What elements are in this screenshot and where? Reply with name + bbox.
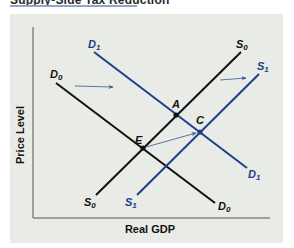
point-e-label: E xyxy=(135,134,143,146)
demand-shift-arrow-icon xyxy=(75,86,113,87)
label-s1-bottom: S1 xyxy=(125,196,137,210)
curve-s1 xyxy=(137,74,259,195)
label-d0-start: D0 xyxy=(50,68,63,82)
supply-shift-arrow-icon xyxy=(220,78,246,80)
label-s0-bottom: S0 xyxy=(84,196,96,210)
x-axis-title: Real GDP xyxy=(125,223,175,235)
point-c-label: C xyxy=(196,114,205,126)
y-axis-title: Price Level xyxy=(14,106,26,164)
point-e-dot xyxy=(140,145,145,150)
label-s0-top: S0 xyxy=(236,38,248,52)
label-d0-end: D0 xyxy=(218,200,231,214)
label-d1-start: D1 xyxy=(88,38,101,52)
point-c-dot xyxy=(197,129,202,134)
point-a-label: A xyxy=(171,98,180,110)
label-d1-end: D1 xyxy=(248,168,261,182)
supply-demand-chart: E A C D0 D1 S0 S1 S0 S1 D1 D0 Real GDP P… xyxy=(0,0,294,248)
point-a-dot xyxy=(173,112,178,117)
curve-s0 xyxy=(96,52,241,195)
label-s1-top: S1 xyxy=(257,60,269,74)
